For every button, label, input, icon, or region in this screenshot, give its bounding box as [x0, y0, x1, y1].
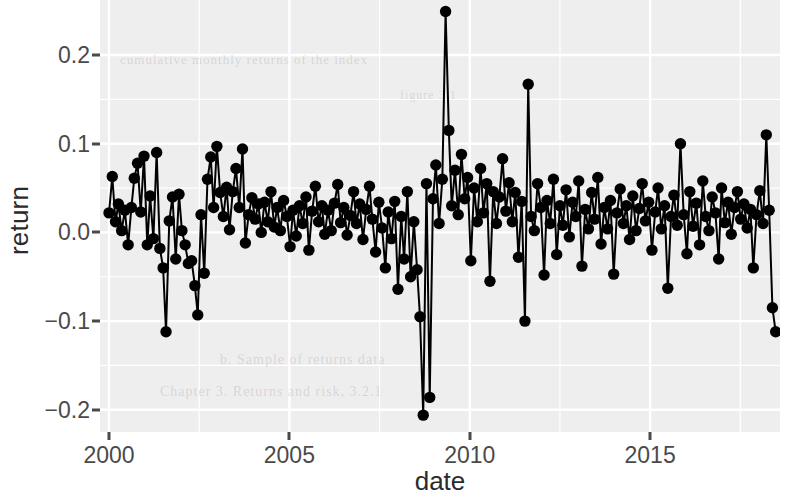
data-point: [237, 143, 248, 154]
x-tick-label: 2000: [83, 442, 134, 469]
data-point: [608, 268, 619, 279]
data-point: [265, 186, 276, 197]
data-point: [189, 280, 200, 291]
data-point: [192, 309, 203, 320]
data-point: [326, 225, 337, 236]
data-point: [202, 173, 213, 184]
data-point: [234, 202, 245, 213]
data-point: [519, 315, 530, 326]
y-tick-mark: [92, 231, 100, 234]
data-point: [713, 253, 724, 264]
data-point: [659, 200, 670, 211]
data-point: [538, 269, 549, 280]
data-point: [443, 125, 454, 136]
data-point: [592, 172, 603, 183]
data-point: [157, 262, 168, 273]
x-tick-label: 2005: [264, 442, 315, 469]
x-tick-label: 2010: [444, 442, 495, 469]
data-point: [767, 302, 778, 313]
y-tick-mark: [92, 320, 100, 323]
data-point: [732, 186, 743, 197]
y-tick-mark: [92, 408, 100, 411]
data-point: [497, 153, 508, 164]
data-point: [456, 149, 467, 160]
data-point: [259, 197, 270, 208]
data-point: [560, 184, 571, 195]
data-point: [173, 189, 184, 200]
data-point: [138, 150, 149, 161]
y-tick-mark: [92, 53, 100, 56]
data-point: [507, 216, 518, 227]
data-point: [348, 186, 359, 197]
data-point: [621, 200, 632, 211]
x-tick-mark: [108, 432, 111, 440]
data-point: [144, 190, 155, 201]
data-point: [637, 178, 648, 189]
data-point: [367, 213, 378, 224]
data-point: [433, 218, 444, 229]
data-point: [678, 209, 689, 220]
data-point: [386, 233, 397, 244]
data-point: [160, 326, 171, 337]
data-point: [706, 191, 717, 202]
data-point: [291, 230, 302, 241]
data-point: [107, 171, 118, 182]
data-point: [341, 229, 352, 240]
data-point: [424, 392, 435, 403]
data-point: [453, 209, 464, 220]
data-point: [227, 186, 238, 197]
data-point: [694, 239, 705, 250]
data-point: [154, 243, 165, 254]
data-point: [580, 204, 591, 215]
data-point: [186, 255, 197, 266]
data-point: [396, 211, 407, 222]
data-point: [383, 206, 394, 217]
data-point: [418, 409, 429, 420]
data-point: [491, 218, 502, 229]
data-point: [643, 197, 654, 208]
data-point: [402, 186, 413, 197]
data-point: [208, 202, 219, 213]
data-point: [430, 159, 441, 170]
data-point: [554, 200, 565, 211]
data-point: [176, 225, 187, 236]
data-point: [335, 217, 346, 228]
data-point: [462, 172, 473, 183]
data-point: [618, 218, 629, 229]
data-point: [170, 253, 181, 264]
data-point: [614, 183, 625, 194]
data-point: [503, 177, 514, 188]
data-point: [529, 225, 540, 236]
data-point: [129, 173, 140, 184]
data-point: [494, 191, 505, 202]
data-point: [703, 225, 714, 236]
y-tick-label: 0.2: [0, 41, 90, 68]
data-point: [256, 227, 267, 238]
data-point: [675, 138, 686, 149]
data-point: [459, 193, 470, 204]
return-series: [100, 0, 780, 432]
data-point: [370, 246, 381, 257]
data-point: [135, 206, 146, 217]
data-point: [640, 215, 651, 226]
data-point: [513, 252, 524, 263]
data-point: [757, 218, 768, 229]
data-point: [437, 173, 448, 184]
data-point: [475, 163, 486, 174]
plot-panel: cumulative monthly returns of the indexf…: [100, 0, 780, 432]
data-point: [332, 179, 343, 190]
data-point: [541, 195, 552, 206]
y-tick-label: −0.2: [0, 396, 90, 423]
data-point: [218, 211, 229, 222]
data-point: [122, 239, 133, 250]
data-point: [523, 79, 534, 90]
data-point: [656, 223, 667, 234]
data-point: [649, 206, 660, 217]
data-point: [586, 187, 597, 198]
data-point: [532, 178, 543, 189]
data-point: [380, 262, 391, 273]
data-point: [427, 193, 438, 204]
data-point: [697, 175, 708, 186]
data-point: [205, 151, 216, 162]
data-point: [164, 215, 175, 226]
